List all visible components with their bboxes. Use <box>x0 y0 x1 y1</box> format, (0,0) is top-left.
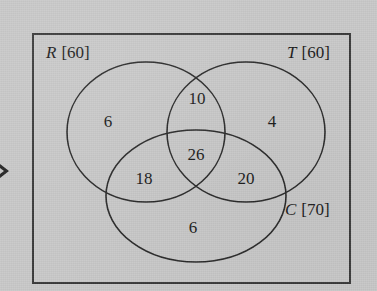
set-letter-t: T <box>287 43 298 62</box>
set-label-c: C[70] <box>285 200 330 219</box>
region-count-t-and-c: 20 <box>238 169 255 188</box>
region-count-r-and-t: 10 <box>189 89 206 108</box>
set-total-c: [70] <box>301 200 329 219</box>
venn-diagram-canvas: R[60] T[60] C[70] 6 10 4 18 26 20 6 <box>0 0 377 291</box>
region-count-r-only: 6 <box>104 112 113 131</box>
region-count-c-only: 6 <box>189 218 198 237</box>
region-count-r-t-c: 26 <box>188 145 205 164</box>
set-total-r: [60] <box>61 43 89 62</box>
left-edge-arrow-icon <box>0 164 9 178</box>
venn-diagram-figure: R[60] T[60] C[70] 6 10 4 18 26 20 6 <box>0 0 377 291</box>
region-count-t-only: 4 <box>268 112 277 131</box>
set-letter-c: C <box>285 200 297 219</box>
set-label-t: T[60] <box>287 43 330 62</box>
set-letter-r: R <box>45 43 57 62</box>
set-label-r: R[60] <box>45 43 90 62</box>
region-count-r-and-c: 18 <box>136 169 153 188</box>
set-total-t: [60] <box>301 43 329 62</box>
